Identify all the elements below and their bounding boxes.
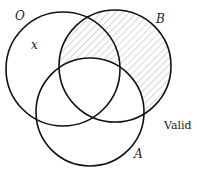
verdict-label: Valid (163, 119, 192, 132)
label-b: B (155, 12, 165, 26)
label-o: O (15, 9, 25, 23)
label-a: A (133, 147, 143, 161)
label-x: x (31, 38, 38, 52)
venn-diagram: O x B A Valid (0, 0, 199, 175)
